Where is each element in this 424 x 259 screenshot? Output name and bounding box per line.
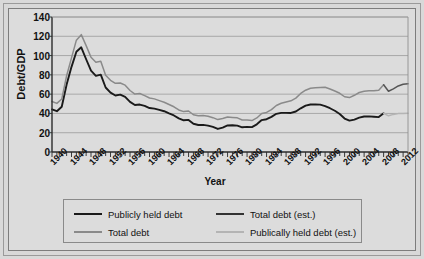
legend-item: Publicly held debt	[74, 205, 182, 223]
series-line	[384, 84, 408, 92]
chart-plot-wrapper: Debt/GDP Year 020406080100120140 1940194…	[0, 0, 424, 259]
series-line	[52, 47, 384, 129]
legend-color-swatch	[216, 231, 244, 233]
legend-item: Total debt	[74, 223, 149, 241]
legend-color-swatch	[74, 213, 102, 215]
legend-item: Publically held debt (est.)	[216, 223, 356, 241]
legend-label: Total debt (est.)	[250, 209, 315, 220]
screenshot-frame: Debt/GDP Year 020406080100120140 1940194…	[0, 0, 424, 259]
legend-label: Publicly held debt	[108, 209, 182, 220]
legend-label: Total debt	[108, 227, 149, 238]
legend-item: Total debt (est.)	[216, 205, 315, 223]
chart-legend: Publicly held debtTotal debtTotal debt (…	[63, 199, 362, 243]
legend-color-swatch	[216, 213, 244, 215]
legend-label: Publically held debt (est.)	[250, 227, 356, 238]
data-series-group	[52, 35, 408, 129]
legend-color-swatch	[74, 231, 102, 233]
